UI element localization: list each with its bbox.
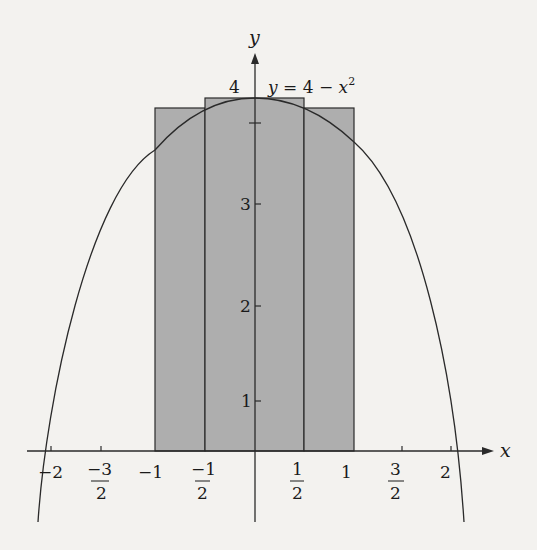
x-axis-label: x	[500, 439, 511, 461]
x-tick-label-3-2-num: 3	[390, 459, 401, 479]
x-tick-label-1: 1	[341, 462, 352, 482]
function-label-eq: = 4 −	[278, 77, 339, 97]
x-tick-label-neg1: −1	[138, 462, 163, 482]
y-tick-label-3: 3	[240, 194, 251, 214]
x-axis-arrow-icon	[482, 447, 494, 455]
y-tick-label-1: 1	[241, 391, 252, 411]
x-tick-label-1-2-den: 2	[292, 483, 303, 503]
y-tick-label-4: 4	[229, 77, 240, 97]
x-tick-label-neg2: −2	[38, 462, 63, 482]
x-tick-label-3-2-den: 2	[390, 483, 401, 503]
x-tick-labels: −2 −3 2 −1 −1 2 1 2 1 3 2 2	[38, 459, 451, 503]
function-label-var: x	[339, 77, 349, 97]
rectangle-right	[304, 108, 354, 451]
y-tick-label-2: 2	[240, 296, 251, 316]
x-tick-label-neg3-2-num: −3	[87, 459, 112, 479]
x-tick-label-2: 2	[440, 462, 451, 482]
x-tick-label-neg1-2-num: −1	[191, 459, 216, 479]
x-tick-label-1-2-num: 1	[292, 459, 303, 479]
function-label-exp: 2	[348, 75, 355, 88]
x-tick-label-neg1-2-den: 2	[197, 483, 208, 503]
x-tick-label-neg3-2-den: 2	[96, 483, 107, 503]
y-axis-label: y	[248, 26, 260, 48]
riemann-sum-plot: x y −2 −3 2 −1 −1 2 1 2 1 3 2 2	[0, 0, 537, 550]
y-axis-arrow-icon	[251, 53, 259, 64]
function-label: y = 4 − x2	[267, 75, 355, 97]
rectangle-left	[155, 108, 205, 451]
function-label-lhs: y	[267, 77, 278, 97]
